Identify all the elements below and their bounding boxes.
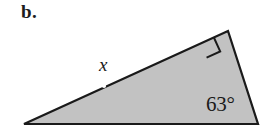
angle-measure-label: 63° <box>206 93 235 116</box>
hypotenuse-midpoint-dot-icon <box>102 84 106 88</box>
geometry-figure: b. x 63° <box>0 0 273 131</box>
side-length-label-x: x <box>99 55 107 75</box>
